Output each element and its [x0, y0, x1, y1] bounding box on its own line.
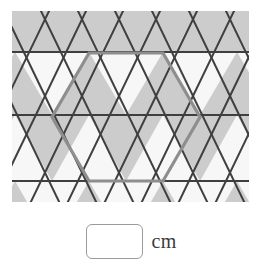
answer-input[interactable] [86, 224, 143, 259]
answer-row: cm [0, 218, 262, 264]
tessellation-graphic [0, 0, 262, 212]
tessellation-panel [0, 0, 262, 212]
tessellation-figure [0, 0, 262, 212]
unit-label: cm [152, 231, 177, 251]
